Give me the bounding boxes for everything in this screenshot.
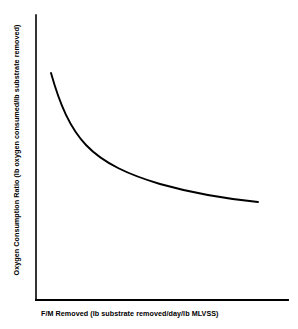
oxygen-consumption-curve: [51, 73, 258, 202]
plot-area: [0, 0, 298, 329]
x-axis-label: F/M Removed (lb substrate removed/day/lb…: [41, 310, 219, 317]
chart-figure: Oxygen Consumption Ratio (lb oxygen cons…: [0, 0, 298, 329]
